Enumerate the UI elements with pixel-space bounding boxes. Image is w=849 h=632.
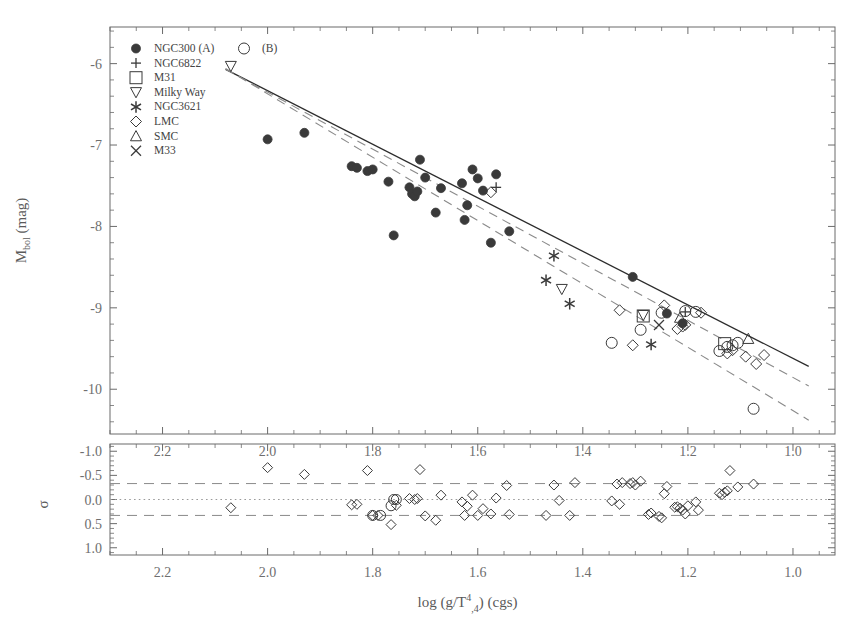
legend-label: Milky Way	[154, 86, 206, 99]
data-point-filled-circle	[415, 155, 424, 164]
data-point-filled-circle	[473, 174, 482, 183]
data-point-filled-circle	[505, 227, 514, 236]
legend-label: NGC6822	[154, 57, 202, 69]
residual-xtick-label: 1.8	[364, 565, 382, 580]
main-ytick-label: -8	[90, 219, 102, 234]
data-point-filled-circle	[468, 165, 477, 174]
main-ytick-label: -6	[90, 57, 102, 72]
data-point-filled-circle	[457, 179, 466, 188]
data-point-filled-circle	[421, 173, 430, 182]
legend-marker-filled-circle-icon	[132, 44, 141, 53]
scientific-plot: 2.22.01.81.61.41.21.0-10-9-8-7-6 2.22.01…	[0, 0, 849, 632]
data-point-filled-circle	[368, 165, 377, 174]
residual-ytick-label: -1.0	[80, 444, 102, 459]
residual-xtick-label: 2.2	[154, 565, 172, 580]
residual-xtick-label: 1.0	[784, 565, 802, 580]
legend-label: SMC	[154, 130, 179, 142]
data-point-filled-circle	[463, 201, 472, 210]
main-ytick-label: -10	[83, 382, 102, 397]
data-point-filled-circle	[431, 208, 440, 217]
main-ytick-label: -7	[90, 138, 102, 153]
figure-container: 2.22.01.81.61.41.21.0-10-9-8-7-6 2.22.01…	[0, 0, 849, 632]
residual-xtick-label: 2.0	[259, 565, 277, 580]
main-ytick-label: -9	[90, 301, 102, 316]
y-axis-label-residual: σ	[35, 500, 51, 508]
data-point-filled-circle	[384, 177, 393, 186]
legend-label: M31	[154, 71, 176, 83]
legend-label: NGC300 (A)	[154, 42, 215, 55]
data-point-filled-circle	[486, 238, 495, 247]
data-point-filled-circle	[479, 186, 488, 195]
data-point-filled-circle	[460, 215, 469, 224]
data-point-filled-circle	[436, 184, 445, 193]
residual-xtick-label: 1.2	[679, 565, 697, 580]
legend-label: LMC	[154, 115, 179, 127]
residual-ytick-label: 0.0	[85, 493, 103, 508]
data-point-filled-circle	[628, 272, 637, 281]
legend-label-b: (B)	[262, 42, 278, 55]
data-point-filled-circle	[492, 170, 501, 179]
residual-ytick-label: 0.5	[85, 517, 103, 532]
residual-xtick-label: 1.4	[574, 565, 592, 580]
legend-label: NGC3621	[154, 100, 202, 112]
residual-ytick-label: 1.0	[85, 541, 103, 556]
data-point-filled-circle	[389, 231, 398, 240]
data-point-filled-circle	[413, 187, 422, 196]
legend-label: M33	[154, 144, 176, 156]
residual-ytick-label: -0.5	[80, 468, 102, 483]
data-point-filled-circle	[263, 135, 272, 144]
data-point-filled-circle	[352, 163, 361, 172]
data-point-filled-circle	[300, 128, 309, 137]
residual-xtick-label: 1.6	[469, 565, 487, 580]
figure-background	[0, 0, 849, 632]
